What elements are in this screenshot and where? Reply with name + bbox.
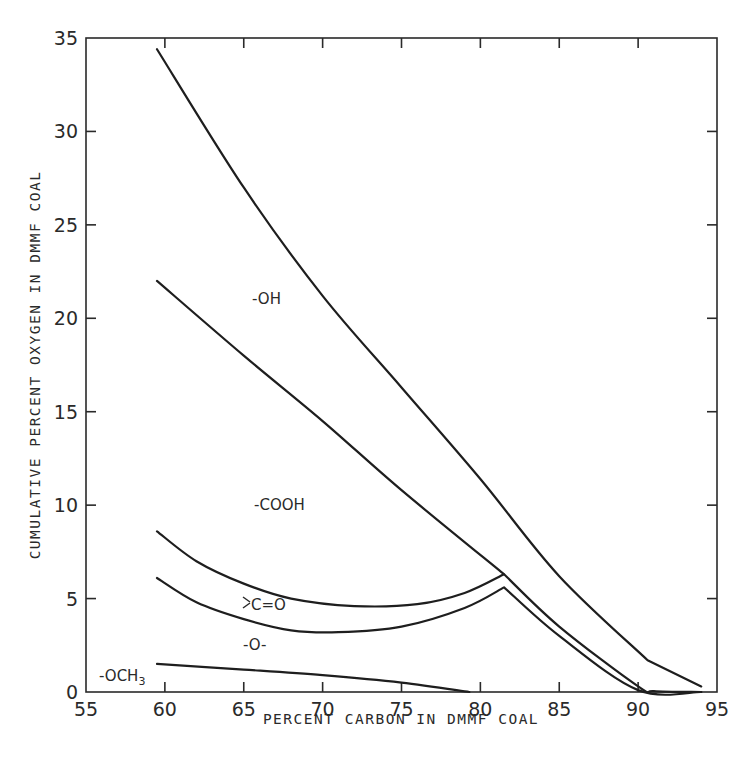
carbonyl-bond-lower	[243, 603, 250, 608]
x-tick-label: 95	[705, 698, 729, 720]
label-ether: -O-	[243, 636, 266, 654]
curve-oh	[157, 49, 701, 686]
curve-ether	[157, 578, 701, 695]
curve-och3	[157, 664, 469, 692]
y-tick-label: 15	[54, 401, 78, 423]
label-carbonyl: C=O	[243, 596, 286, 614]
x-tick-label: 90	[626, 698, 650, 720]
label-och3-main: -OCH	[99, 667, 138, 685]
label-co: C=O	[251, 596, 286, 614]
label-och3-sub: 3	[138, 675, 145, 688]
chart: 556065707580859095 05101520253035 PERCEN…	[0, 0, 755, 771]
x-axis-title: PERCENT CARBON IN DMMF COAL	[263, 711, 539, 727]
y-tick-labels: 05101520253035	[54, 27, 78, 703]
label-cooh: -COOH	[254, 496, 305, 514]
y-tick-label: 0	[66, 681, 78, 703]
y-tick-label: 20	[54, 307, 78, 329]
y-tick-label: 5	[66, 588, 78, 610]
curve-cooh	[157, 281, 701, 693]
x-tick-label: 65	[232, 698, 256, 720]
label-och3: -OCH3	[99, 667, 145, 688]
x-tick-label: 60	[153, 698, 177, 720]
y-tick-label: 25	[54, 214, 78, 236]
label-oh: -OH	[252, 290, 281, 308]
carbonyl-bond-upper	[243, 597, 250, 602]
y-axis-title: CUMULATIVE PERCENT OXYGEN IN DMMF COAL	[27, 171, 43, 560]
y-tick-label: 35	[54, 27, 78, 49]
y-tick-label: 30	[54, 120, 78, 142]
x-tick-label: 85	[547, 698, 571, 720]
curve-carbonyl	[157, 531, 504, 606]
data-curves	[157, 49, 701, 695]
y-tick-label: 10	[54, 494, 78, 516]
